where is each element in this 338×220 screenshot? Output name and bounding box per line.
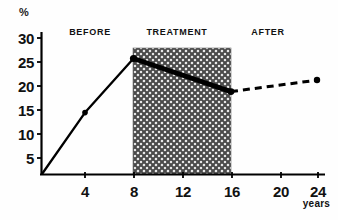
plot-area — [0, 0, 338, 220]
chart-figure: % BEFORE TREATMENT AFTER 30 25 20 15 10 … — [0, 0, 338, 220]
data-point-year-4 — [82, 110, 88, 116]
data-point-year-8 — [130, 55, 137, 62]
series-line-after — [231, 80, 318, 92]
data-point-year-16 — [228, 88, 235, 95]
series-line-before — [42, 59, 134, 175]
treatment-shaded-region — [133, 48, 231, 174]
data-point-year-24 — [314, 77, 320, 83]
